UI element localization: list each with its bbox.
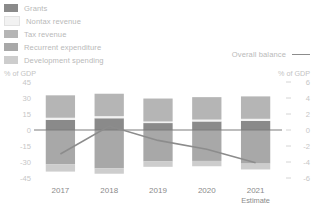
right-tick-label: -6	[303, 174, 310, 183]
left-tick-label: -45	[20, 174, 31, 183]
legend-item-label: Development spending	[24, 56, 104, 65]
legend-item-label: Recurrent expenditure	[24, 43, 101, 52]
bar-segment	[143, 123, 172, 130]
bar-segment	[241, 130, 270, 164]
left-axis-title: % of GDP	[4, 69, 36, 78]
bar-segment	[46, 118, 75, 120]
right-tick-label: 4	[306, 94, 310, 103]
bar-segment	[46, 120, 75, 130]
x-axis-label-year: 2021	[247, 186, 265, 195]
legend-overall-balance: Overall balance	[232, 50, 310, 59]
x-axis-label: 2021Estimate	[231, 186, 280, 205]
legend-swatch	[4, 56, 18, 64]
legend-swatch	[4, 4, 18, 12]
bar-segment	[241, 164, 270, 170]
x-axis-label-year: 2017	[52, 186, 70, 195]
chart-root: GrantsNontax revenueTax revenueRecurrent…	[0, 0, 316, 210]
legend-item: Nontax revenue	[4, 15, 204, 27]
right-tick-label: 6	[306, 78, 310, 87]
x-axis-label: 2019	[134, 186, 183, 196]
legend-swatch	[4, 30, 18, 38]
left-tick-label: -30	[20, 158, 31, 167]
legend-item: Development spending	[4, 54, 204, 66]
bar-segment	[192, 130, 221, 161]
legend-item-label: Nontax revenue	[26, 17, 81, 26]
left-tick-label: 45	[23, 78, 31, 87]
left-tick-label: 15	[23, 110, 31, 119]
x-axis-label-year: 2020	[198, 186, 216, 195]
legend: GrantsNontax revenueTax revenueRecurrent…	[4, 2, 204, 67]
bar-segment	[46, 130, 75, 164]
bar-segment	[95, 116, 124, 118]
bar-segment	[143, 130, 172, 161]
left-tick-label: -15	[20, 142, 31, 151]
right-tick-label: -2	[303, 142, 310, 151]
legend-item: Recurrent expenditure	[4, 41, 204, 53]
bar-segment	[241, 119, 270, 121]
bar-segment	[192, 97, 221, 119]
right-axis-title: % of GDP	[278, 69, 310, 78]
plot-area: 4530150-15-30-456420-2-4-6	[0, 78, 316, 186]
bar-segment	[192, 120, 221, 122]
legend-swatch	[4, 16, 20, 26]
left-tick-label: 30	[23, 94, 31, 103]
right-tick-label: 0	[306, 126, 310, 135]
bar-segment	[143, 99, 172, 122]
x-axis-label-year: 2018	[100, 186, 118, 195]
legend-item-label: Tax revenue	[24, 30, 66, 39]
legend-item: Tax revenue	[4, 28, 204, 40]
bar-segment	[143, 121, 172, 123]
bar-segment	[143, 161, 172, 166]
x-axis-label: 2018	[85, 186, 134, 196]
bar-segment	[46, 95, 75, 117]
legend-label-overall-balance: Overall balance	[232, 50, 286, 59]
chart-svg: 4530150-15-30-456420-2-4-6	[0, 78, 316, 186]
bar-segment	[192, 121, 221, 130]
x-axis-label-year: 2019	[149, 186, 167, 195]
bar-segment	[95, 94, 124, 116]
legend-item-label: Grants	[24, 4, 47, 13]
right-tick-label: -4	[303, 158, 310, 167]
left-tick-label: 0	[27, 126, 31, 135]
bar-segment	[192, 161, 221, 166]
x-axis-label: 2020	[182, 186, 231, 196]
legend-swatch	[4, 43, 18, 51]
bar-segment	[241, 96, 270, 118]
legend-item: Grants	[4, 2, 204, 14]
bar-segment	[46, 164, 75, 171]
legend-line-swatch	[292, 54, 310, 56]
bar-segment	[95, 168, 124, 173]
x-axis-label: 2017	[36, 186, 85, 196]
x-axis-labels: 20172018201920202021Estimate	[0, 186, 316, 210]
x-axis-label-sub: Estimate	[231, 196, 280, 206]
bar-segment	[241, 121, 270, 130]
right-tick-label: 2	[306, 110, 310, 119]
bar-segment	[95, 130, 124, 168]
